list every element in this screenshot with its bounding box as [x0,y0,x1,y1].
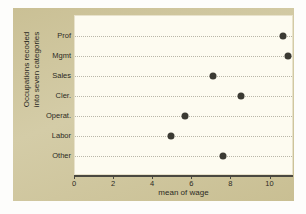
data-point [167,133,174,140]
x-axis-tick-label: 2 [111,179,115,188]
x-axis-tick-label: 10 [265,179,273,188]
x-axis-tick-label: 8 [228,179,232,188]
y-axis-tick-label: Operat. [46,111,71,120]
gridline [75,136,292,137]
data-point [209,73,216,80]
data-point [238,93,245,100]
y-axis-tick-label: Prof [57,31,71,40]
gridline [75,36,292,37]
plot-panel [74,15,293,175]
y-axis-tick-label: Mgmt [52,51,71,60]
y-axis-tick-label: Other [52,151,71,160]
gridline [75,76,292,77]
x-axis-tick-label: 0 [72,179,76,188]
x-axis-tick-label: 4 [150,179,154,188]
y-axis-tick-label: Labor [52,131,71,140]
data-point [280,33,287,40]
gridline [75,56,292,57]
data-point [285,53,292,60]
figure-background: Occupations recoded into seven categorie… [13,8,294,201]
gridline [75,96,292,97]
x-axis-title: mean of wage [74,188,293,197]
data-point [219,153,226,160]
data-point [182,113,189,120]
gridline [75,156,292,157]
y-axis-tick-label: Cler. [56,91,71,100]
x-axis-tick-label: 6 [189,179,193,188]
y-axis-tick-labels: ProfMgmtSalesCler.Operat.LaborOther [13,15,71,175]
y-axis-tick-label: Sales [52,71,71,80]
x-axis-line [74,175,293,177]
